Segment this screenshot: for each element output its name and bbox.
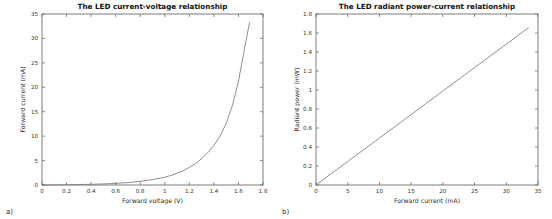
y-tick-label: 15 <box>31 109 39 115</box>
y-tick-label: 0.6 <box>303 125 312 131</box>
plot-frame <box>316 14 538 185</box>
y-tick-label: 0 <box>308 182 312 188</box>
x-tick-label: 25 <box>471 188 479 194</box>
x-tick-label: 1.8 <box>259 188 268 194</box>
data-series-line <box>42 23 249 185</box>
y-tick-label: 30 <box>31 35 39 41</box>
figure-root: The LED current-voltage relationship00.2… <box>0 0 552 219</box>
y-tick-label: 1.8 <box>303 11 312 17</box>
y-axis-label: Radiant power (mW) <box>293 68 301 132</box>
x-tick-label: 1.4 <box>209 188 218 194</box>
x-tick-label: 0 <box>314 188 318 194</box>
y-tick-label: 1 <box>308 87 312 93</box>
x-tick-label: 5 <box>346 188 350 194</box>
x-tick-label: 30 <box>503 188 511 194</box>
x-tick-label: 0.4 <box>87 188 96 194</box>
panel-a: The LED current-voltage relationship00.2… <box>0 0 276 219</box>
x-tick-label: 15 <box>408 188 416 194</box>
x-tick-label: 10 <box>376 188 384 194</box>
y-tick-label: 0 <box>34 182 38 188</box>
x-tick-label: 35 <box>534 188 542 194</box>
panel-b: The LED radiant power-current relationsh… <box>276 0 552 219</box>
chart-a-svg: The LED current-voltage relationship00.2… <box>0 0 276 219</box>
plot-frame <box>42 14 263 185</box>
x-tick-label: 1 <box>163 188 167 194</box>
panel-b-caption: b) <box>282 208 289 216</box>
y-tick-label: 1.2 <box>303 68 312 74</box>
y-tick-label: 10 <box>31 133 39 139</box>
x-tick-label: 0.2 <box>62 188 71 194</box>
y-tick-label: 20 <box>31 84 39 90</box>
y-tick-label: 5 <box>34 158 38 164</box>
chart-title: The LED radiant power-current relationsh… <box>339 2 515 11</box>
x-tick-label: 0 <box>40 188 44 194</box>
x-axis-label: Forward voltage (V) <box>122 197 183 205</box>
y-axis-label: Forward current (mA) <box>19 66 26 132</box>
x-tick-label: 1.2 <box>185 188 194 194</box>
x-tick-label: 0.6 <box>111 188 120 194</box>
y-tick-label: 1.6 <box>303 30 312 36</box>
y-tick-label: 35 <box>31 11 39 17</box>
panel-a-caption: a) <box>6 208 13 216</box>
chart-b-svg: The LED radiant power-current relationsh… <box>276 0 552 219</box>
y-tick-label: 0.2 <box>303 163 312 169</box>
data-series-line <box>316 28 528 185</box>
y-tick-label: 0.4 <box>303 144 312 150</box>
chart-title: The LED current-voltage relationship <box>78 2 228 11</box>
y-tick-label: 0.8 <box>303 106 312 112</box>
x-tick-label: 0.8 <box>136 188 145 194</box>
x-tick-label: 1.6 <box>234 188 243 194</box>
x-axis-label: Forward current (mA) <box>394 197 460 204</box>
x-tick-label: 20 <box>439 188 447 194</box>
y-tick-label: 25 <box>31 60 39 66</box>
y-tick-label: 1.4 <box>303 49 312 55</box>
